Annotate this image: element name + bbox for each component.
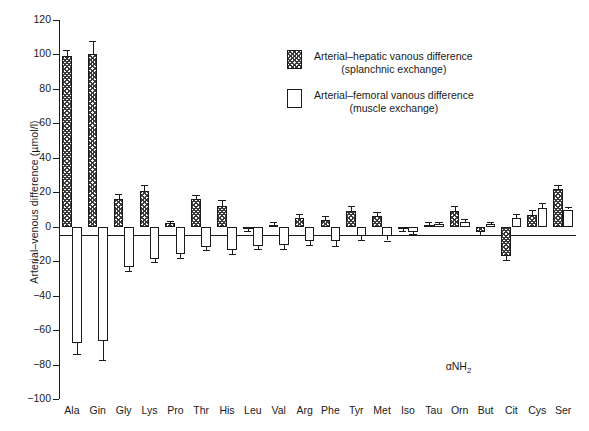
bar-hepatic-ala [62, 56, 72, 227]
bar-femoral-pro [176, 227, 186, 255]
bar-femoral-arg [305, 227, 315, 242]
y-tick-mark [53, 20, 59, 21]
y-tick-mark [53, 54, 59, 55]
bar-femoral-his [227, 227, 237, 250]
bar-hepatic-gin [88, 54, 98, 226]
bar-hepatic-arg [295, 218, 305, 227]
y-tick-label: −80 [15, 359, 51, 370]
y-tick-label: 40 [15, 152, 51, 163]
y-tick-label: 80 [15, 83, 51, 94]
error-bar-cap [177, 258, 184, 259]
bar-hepatic-ser [553, 189, 563, 227]
error-bar-stem [103, 341, 104, 360]
error-bar-cap [477, 235, 484, 236]
bar-hepatic-phe [321, 220, 331, 227]
open-swatch-icon [287, 89, 302, 108]
legend-entry-hepatic: Arterial–hepatic vanous difference (spla… [287, 50, 474, 76]
y-tick-mark [53, 261, 59, 262]
error-bar-stem [77, 343, 78, 354]
error-bar-cap [115, 194, 122, 195]
legend-femoral-line1: Arterial–femoral vanous difference [314, 89, 474, 101]
bar-hepatic-thr [191, 199, 201, 227]
error-bar-cap [151, 262, 158, 263]
error-bar-cap [513, 214, 520, 215]
bar-femoral-lys [150, 227, 160, 259]
y-tick-label: −20 [15, 255, 51, 266]
y-tick-label: −60 [15, 324, 51, 335]
error-bar-cap [332, 246, 339, 247]
error-bar-cap [399, 231, 406, 232]
error-bar-cap [487, 222, 494, 223]
error-bar-cap [192, 195, 199, 196]
y-tick-mark [53, 89, 59, 90]
chart-legend: Arterial–hepatic vanous difference (spla… [287, 50, 474, 128]
error-bar-cap [565, 207, 572, 208]
y-tick-label: 20 [15, 186, 51, 197]
y-tick-label: 100 [15, 48, 51, 59]
bar-femoral-tau [434, 224, 444, 227]
bar-femoral-cys [538, 208, 548, 227]
error-bar-cap [125, 271, 132, 272]
bar-femoral-met [382, 227, 392, 236]
error-bar-cap [254, 249, 261, 250]
error-bar-cap [435, 222, 442, 223]
bar-femoral-orn [460, 222, 470, 226]
error-bar-stem [93, 41, 94, 55]
error-bar-cap [244, 231, 251, 232]
error-bar-cap [384, 241, 391, 242]
bar-femoral-but [486, 224, 496, 227]
y-tick-mark [53, 158, 59, 159]
error-bar-cap [296, 214, 303, 215]
bar-femoral-gly [124, 227, 134, 267]
legend-femoral-line2: (muscle exchange) [314, 102, 474, 115]
bar-hepatic-met [372, 216, 382, 226]
error-bar-cap [229, 254, 236, 255]
alpha-amino-text: αNH [446, 360, 467, 372]
bar-femoral-ala [72, 227, 82, 343]
bar-hepatic-cit [501, 227, 511, 256]
legend-hepatic-line1: Arterial–hepatic vanous difference [314, 50, 473, 62]
zero-baseline [59, 235, 576, 236]
hatched-swatch-icon [287, 50, 302, 69]
error-bar-cap [280, 249, 287, 250]
error-bar-cap [99, 360, 106, 361]
bar-femoral-leu [253, 227, 263, 246]
error-bar-cap [529, 210, 536, 211]
alpha-amino-subscript: 2 [467, 366, 471, 375]
bar-femoral-tyr [357, 227, 367, 236]
bar-hepatic-orn [450, 211, 460, 227]
bar-hepatic-gly [114, 199, 124, 227]
y-tick-label: −40 [15, 290, 51, 301]
bar-hepatic-tau [424, 225, 434, 227]
error-bar-cap [503, 260, 510, 261]
error-bar-cap [409, 234, 416, 235]
bar-femoral-thr [201, 227, 211, 247]
bar-hepatic-lys [140, 191, 150, 227]
error-bar-cap [322, 216, 329, 217]
error-bar-cap [203, 250, 210, 251]
error-bar-cap [89, 41, 96, 42]
bar-hepatic-cys [527, 215, 537, 227]
bar-chart-figure: Arterial–venous difference (µmol/l) 1201… [0, 0, 589, 431]
error-bar-cap [218, 200, 225, 201]
error-bar-cap [306, 245, 313, 246]
error-bar-cap [141, 185, 148, 186]
bar-femoral-ser [563, 210, 573, 227]
error-bar-cap [461, 219, 468, 220]
y-tick-mark [53, 330, 59, 331]
bar-femoral-cit [512, 218, 522, 227]
alpha-amino-annotation: αNH2 [446, 360, 472, 375]
y-tick-label: 60 [15, 117, 51, 128]
error-bar-cap [373, 212, 380, 213]
x-tick-label-ser: Ser [543, 404, 583, 416]
y-tick-mark [53, 296, 59, 297]
y-tick-mark [53, 227, 59, 228]
bar-hepatic-his [217, 206, 227, 227]
bar-femoral-val [279, 227, 289, 245]
y-tick-mark [53, 399, 59, 400]
error-bar-cap [270, 222, 277, 223]
legend-hepatic-line2: (splanchnic exchange) [314, 63, 474, 76]
legend-entry-femoral: Arterial–femoral vanous difference (musc… [287, 89, 474, 115]
bar-hepatic-pro [165, 223, 175, 226]
error-bar-cap [73, 354, 80, 355]
